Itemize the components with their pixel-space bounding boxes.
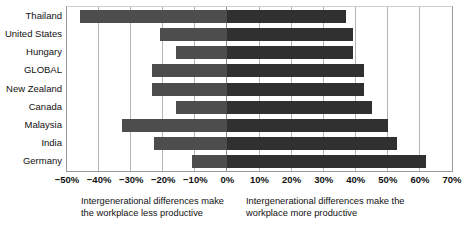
bar-positive — [227, 64, 363, 77]
tick-label: 60% — [410, 174, 429, 186]
bar-positive — [227, 10, 346, 23]
bar-negative — [154, 137, 228, 150]
tick-label: 20% — [282, 174, 301, 186]
diverging-bar-chart: ThailandUnited StatesHungaryGLOBALNew Ze… — [0, 0, 466, 248]
category-label: Thailand — [0, 10, 62, 21]
category-label: India — [0, 137, 62, 148]
bar-row — [67, 101, 452, 114]
bar-negative — [192, 155, 227, 168]
bar-row — [67, 28, 452, 41]
tick-label: 40% — [346, 174, 365, 186]
bar-negative — [160, 28, 227, 41]
category-label: United States — [0, 28, 62, 39]
category-label: Hungary — [0, 46, 62, 57]
tick-label: −40% — [87, 174, 112, 186]
tick-label: 50% — [378, 174, 397, 186]
bar-row — [67, 83, 452, 96]
tick-label: −50% — [55, 174, 80, 186]
bar-positive — [227, 83, 363, 96]
category-label: New Zealand — [0, 83, 62, 94]
value-axis-tick-labels: −50%−40%−30%−20%−10%0%10%20%30%40%50%60%… — [0, 174, 466, 188]
bar-positive — [227, 28, 352, 41]
bar-negative — [176, 101, 227, 114]
bar-negative — [152, 83, 227, 96]
bar-row — [67, 46, 452, 59]
bars-layer — [67, 7, 452, 171]
caption-more-productive: Intergenerational differences make the w… — [246, 196, 406, 219]
bar-negative — [80, 10, 228, 23]
tick-label: 70% — [442, 174, 461, 186]
axis-direction-captions: Intergenerational differences make the w… — [0, 196, 466, 248]
bar-positive — [227, 119, 387, 132]
category-label: Germany — [0, 155, 62, 166]
bar-positive — [227, 137, 397, 150]
category-axis-labels: ThailandUnited StatesHungaryGLOBALNew Ze… — [0, 6, 62, 172]
bar-positive — [227, 46, 352, 59]
bar-positive — [227, 101, 371, 114]
bar-row — [67, 119, 452, 132]
caption-less-productive: Intergenerational differences make the w… — [81, 196, 231, 219]
tick-label: 30% — [314, 174, 333, 186]
tick-label: 10% — [250, 174, 269, 186]
bar-row — [67, 10, 452, 23]
bar-negative — [152, 64, 227, 77]
bar-negative — [122, 119, 228, 132]
tick-label: −20% — [151, 174, 176, 186]
category-label: Malaysia — [0, 119, 62, 130]
tick-label: −30% — [119, 174, 144, 186]
category-label: Canada — [0, 101, 62, 112]
tick-label: 0% — [221, 174, 235, 186]
category-label: GLOBAL — [0, 64, 62, 75]
bar-row — [67, 64, 452, 77]
tick-label: −10% — [183, 174, 208, 186]
bar-positive — [227, 155, 426, 168]
bar-negative — [176, 46, 227, 59]
bar-row — [67, 155, 452, 168]
bar-row — [67, 137, 452, 150]
